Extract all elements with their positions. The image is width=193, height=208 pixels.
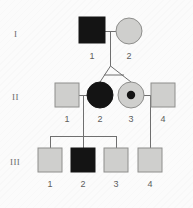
twin-leg-right: [111, 66, 132, 82]
individual-III-1-symbol[interactable]: [38, 148, 62, 172]
individual-III-3-symbol[interactable]: [104, 148, 128, 172]
pedigree-canvas: I II III 1 2 1 2 3 4 1 2: [0, 0, 193, 208]
pedigree-chart: I II III 1 2 1 2 3 4 1 2: [0, 0, 193, 208]
generation-label-I: I: [14, 29, 17, 39]
individual-II-4-symbol[interactable]: [151, 83, 175, 107]
individual-III-4-symbol[interactable]: [138, 148, 162, 172]
individual-II-1-label: 1: [64, 114, 69, 124]
generation-II-group: 1 2 3 4: [55, 82, 175, 124]
generation-label-III: III: [10, 157, 20, 167]
generation-label-II: II: [12, 92, 19, 102]
individual-II-3-carrier-dot: [127, 91, 135, 99]
individual-III-2-label: 2: [80, 179, 85, 189]
twin-leg-left: [100, 66, 111, 82]
individual-III-4-label: 4: [147, 179, 152, 189]
generation-labels: I II III: [10, 29, 20, 167]
individual-II-2-symbol[interactable]: [87, 82, 113, 108]
individual-II-1-symbol[interactable]: [55, 83, 79, 107]
generation-III-group: 1 2 3 4: [38, 148, 162, 189]
individual-I-1-symbol[interactable]: [79, 17, 105, 43]
individual-III-1-label: 1: [47, 179, 52, 189]
individual-II-3-label: 3: [128, 114, 133, 124]
individual-I-2-symbol[interactable]: [116, 18, 142, 44]
individual-II-2-label: 2: [97, 114, 102, 124]
individual-III-3-label: 3: [113, 179, 118, 189]
individual-I-1-label: 1: [89, 51, 94, 61]
individual-III-2-symbol[interactable]: [71, 148, 95, 172]
individual-II-4-label: 4: [160, 114, 165, 124]
individual-I-2-label: 2: [126, 51, 131, 61]
